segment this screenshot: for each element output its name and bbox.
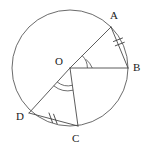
angle-DOC-arcs <box>54 82 73 91</box>
radius-OC-line <box>70 68 78 126</box>
vertex-label-C: C <box>72 133 79 144</box>
geometry-canvas <box>0 0 150 152</box>
vertex-label-B: B <box>133 62 140 73</box>
vertex-label-O: O <box>55 56 63 67</box>
chord-AB-line <box>111 27 128 68</box>
radius-OA-line <box>70 27 111 68</box>
vertex-label-D: D <box>16 111 24 122</box>
angle-AOB-arcs <box>82 56 92 68</box>
geometry-figure: A B C D O <box>0 0 150 152</box>
vertex-label-A: A <box>110 10 118 21</box>
